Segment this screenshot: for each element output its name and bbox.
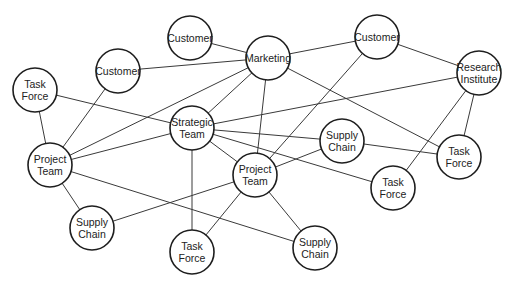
- node-task-force-left[interactable]: TaskForce: [13, 68, 57, 112]
- node-label: Chain: [328, 141, 356, 153]
- node-customer-right[interactable]: Customer: [354, 15, 400, 59]
- node-task-force-lower[interactable]: TaskForce: [371, 166, 415, 210]
- node-label: Team: [179, 128, 205, 140]
- node-label: Supply: [76, 216, 109, 228]
- node-label: Supply: [299, 236, 332, 248]
- node-label: Force: [446, 157, 473, 169]
- network-diagram: CustomerMarketingCustomerResearchInstitu…: [0, 0, 511, 285]
- node-label: Task: [448, 145, 470, 157]
- node-label: Customer: [167, 32, 213, 44]
- node-label: Team: [37, 165, 63, 177]
- node-label: Task: [181, 240, 203, 252]
- node-label: Force: [22, 90, 49, 102]
- node-label: Marketing: [245, 52, 291, 64]
- node-label: Strategic: [171, 116, 212, 128]
- node-label: Force: [179, 252, 206, 264]
- node-supply-chain-mid[interactable]: SupplyChain: [320, 119, 364, 163]
- node-supply-chain-left[interactable]: SupplyChain: [70, 206, 114, 250]
- node-supply-chain-bottom[interactable]: SupplyChain: [293, 226, 337, 270]
- node-customer-top[interactable]: Customer: [167, 16, 213, 60]
- node-task-force-right[interactable]: TaskForce: [437, 135, 481, 179]
- node-label: Chain: [301, 248, 329, 260]
- node-project-team-left[interactable]: ProjectTeam: [28, 143, 72, 187]
- node-label: Task: [24, 78, 46, 90]
- edge-project-team-center-to-supply-chain-left: [92, 175, 255, 228]
- node-label: Project: [239, 163, 272, 175]
- node-project-team-center[interactable]: ProjectTeam: [233, 153, 277, 197]
- node-label: Customer: [95, 65, 141, 77]
- node-label: Customer: [354, 31, 400, 43]
- node-label: Team: [242, 175, 268, 187]
- node-label: Force: [380, 188, 407, 200]
- edge-marketing-to-project-team-left: [50, 58, 268, 165]
- node-research-institute[interactable]: ResearchInstitute: [457, 51, 502, 95]
- node-label: Project: [34, 153, 67, 165]
- node-label: Research: [457, 61, 502, 73]
- node-marketing[interactable]: Marketing: [245, 36, 291, 80]
- node-task-force-bottom[interactable]: TaskForce: [170, 230, 214, 274]
- diagram-svg: CustomerMarketingCustomerResearchInstitu…: [0, 0, 511, 285]
- nodes-layer: CustomerMarketingCustomerResearchInstitu…: [13, 15, 502, 274]
- node-label: Institute: [461, 73, 498, 85]
- node-label: Chain: [78, 228, 106, 240]
- node-customer-left[interactable]: Customer: [95, 49, 141, 93]
- node-strategic-team[interactable]: StrategicTeam: [170, 106, 214, 150]
- edge-task-force-left-to-strategic-team: [35, 90, 192, 128]
- node-label: Task: [382, 176, 404, 188]
- node-label: Supply: [326, 129, 359, 141]
